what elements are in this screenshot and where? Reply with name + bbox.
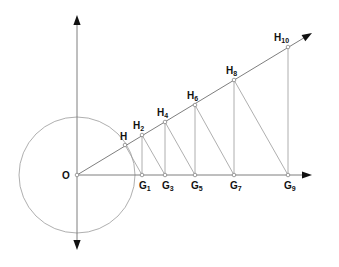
arrow-up-icon: [73, 15, 80, 25]
arrow-right-icon: [302, 171, 312, 178]
label-H8: H8: [226, 65, 237, 77]
arrow-diagonal-icon: [302, 33, 312, 41]
point-H6: [193, 103, 197, 107]
diagonal-ray: [77, 37, 305, 175]
label-G5: G5: [191, 180, 203, 192]
segment-H2-G3: [142, 135, 165, 175]
label-origin: O: [62, 170, 70, 181]
point-O: [75, 173, 79, 177]
label-H2: H2: [133, 120, 144, 132]
point-H2: [140, 133, 144, 137]
segment-H4-G5: [165, 122, 195, 175]
point-G3: [163, 173, 167, 177]
point-H4: [163, 120, 167, 124]
point-G7: [232, 173, 236, 177]
label-H6: H6: [187, 90, 198, 102]
arrow-down-icon: [73, 240, 80, 250]
point-G1: [140, 173, 144, 177]
segment-H8-G9: [234, 80, 288, 175]
point-H10: [286, 45, 290, 49]
label-G7: G7: [230, 180, 242, 192]
label-G9: G9: [284, 180, 296, 192]
segment-H-G1: [125, 145, 142, 175]
label-H: H: [120, 131, 127, 142]
label-H10: H10: [274, 32, 289, 44]
point-G5: [193, 173, 197, 177]
label-G1: G1: [139, 180, 151, 192]
label-H4: H4: [157, 107, 168, 119]
point-H: [123, 143, 127, 147]
point-H8: [232, 78, 236, 82]
segment-H6-G7: [195, 105, 234, 175]
label-G3: G3: [162, 180, 174, 192]
point-G9: [286, 173, 290, 177]
geometry-diagram: OHH2H4H6H8H10G1G3G5G7G9: [0, 0, 339, 267]
